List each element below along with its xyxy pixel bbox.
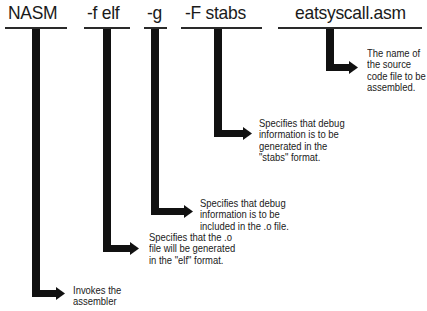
arrow-g-icon xyxy=(151,29,193,218)
arrow-nasm-icon xyxy=(32,29,65,300)
desc-source-file: The name of the source code file to be a… xyxy=(367,48,426,93)
desc-line: file will be generated xyxy=(149,243,235,254)
desc-F-stabs: Specifies that debug information is to b… xyxy=(259,118,345,163)
desc-line: assembled. xyxy=(367,82,426,93)
arrow-F-stabs-icon xyxy=(214,29,252,140)
desc-line: included in the .o file. xyxy=(200,221,289,232)
desc-line: information is to be xyxy=(259,129,345,140)
arrow-source-file-icon xyxy=(326,29,358,74)
desc-line: the source xyxy=(367,59,426,70)
arrow-f-elf-icon xyxy=(103,29,139,255)
desc-line: assembler xyxy=(73,296,121,307)
desc-nasm: Invokes the assembler xyxy=(73,285,121,308)
desc-line: in the "elf" format. xyxy=(149,255,235,266)
desc-line: "stabs" format. xyxy=(259,152,345,163)
desc-line: information is to be xyxy=(200,209,289,220)
desc-f-elf: Specifies that the .o file will be gener… xyxy=(149,232,235,266)
desc-g: Specifies that debug information is to b… xyxy=(200,198,289,232)
